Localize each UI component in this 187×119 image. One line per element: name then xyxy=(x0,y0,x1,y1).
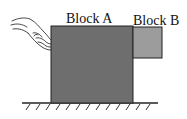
block-a xyxy=(51,26,133,103)
ground xyxy=(22,103,158,110)
block-a-label: Block A xyxy=(66,12,112,26)
block-b xyxy=(133,27,162,58)
hand-icon xyxy=(11,18,51,50)
block-b-label: Block B xyxy=(133,14,179,28)
